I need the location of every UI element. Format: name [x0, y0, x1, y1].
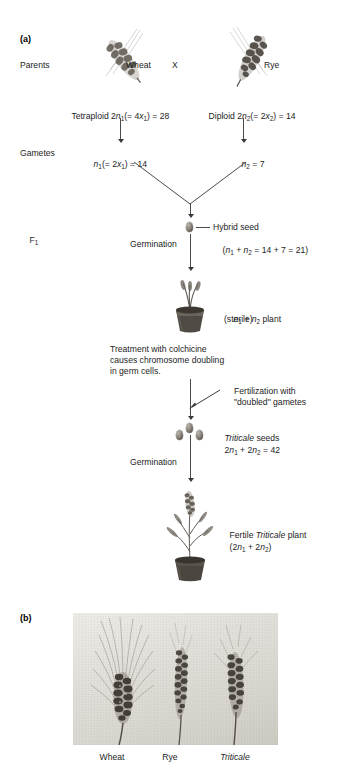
rye-ploidy-sub2: 2	[270, 115, 274, 122]
photo-caption-rye: Rye	[140, 752, 200, 762]
wheat-ploidy-mid: (= 4	[124, 111, 139, 121]
row-label-f1-sub: 1	[35, 239, 39, 246]
rye-gamete-suffix: = 7	[250, 159, 265, 169]
hybrid-formula-sub1: 1	[230, 249, 234, 256]
hybrid-formula-sub2: 2	[248, 249, 252, 256]
germination-label-2: Germination	[130, 457, 177, 468]
wheat-gamete-mid: (= 2	[102, 159, 117, 169]
triticale-formula-sub1: 1	[234, 449, 238, 456]
wheat-ploidy-sub1: 1	[121, 115, 125, 122]
panel-b-label: (b)	[20, 613, 32, 623]
fertilization-note-line-1: Fertilization with	[234, 386, 296, 397]
arrow-germination-1-head	[188, 267, 194, 271]
triticale-seed-icon-2	[176, 430, 183, 440]
arrow-rye-meiosis-line	[243, 118, 244, 140]
fertile-plant-formula: (2n1 + 2n2)	[220, 531, 271, 564]
arrow-germination-2-line	[190, 435, 191, 479]
colchicine-note-line-2: causes chromosome doubling	[110, 355, 224, 366]
rye-spike-illustration	[223, 24, 279, 90]
hybrid-formula-plus: +	[234, 245, 244, 255]
fertile-formula-sub1: 1	[242, 546, 246, 553]
hybrid-formula-close: = 14 + 7 = 21)	[252, 245, 308, 255]
wheat-ploidy-sub2: 1	[144, 115, 148, 122]
row-label-parents: Parents	[20, 60, 50, 71]
panel-a-label: (a)	[20, 34, 31, 44]
rye-ploidy-prefix: Diploid 2	[209, 111, 242, 121]
photo-caption-wheat: Wheat	[82, 752, 142, 762]
rye-ploidy-suffix: ) = 14	[273, 111, 295, 121]
fertile-formula-plus: + 2	[246, 542, 261, 552]
triticale-formula-plus: + 2	[238, 445, 253, 455]
colchicine-note-line-1: Treatment with colchicine	[110, 344, 207, 355]
hybrid-seed-formula: (n1 + n2 = 14 + 7 = 21)	[213, 234, 308, 267]
germination-label-1: Germination	[130, 239, 177, 250]
cross-symbol: X	[172, 60, 178, 71]
fertilization-note-line-2: "doubled" gametes	[234, 397, 306, 408]
triticale-formula-sub2: 2	[257, 449, 261, 456]
row-label-f1: F1	[20, 224, 38, 257]
arrow-germination-2-head	[188, 478, 194, 482]
hybrid-seed-label: Hybrid seed	[213, 222, 259, 233]
wheat-parent-label: Wheat	[126, 60, 151, 71]
sterile-plant-sub2: 2	[256, 318, 260, 325]
rye-ploidy-formula: Diploid 2n2(= 2x2) = 14	[199, 100, 296, 133]
arrow-wheat-meiosis-head	[118, 139, 124, 143]
wheat-ploidy-var-x: x	[139, 111, 143, 121]
triticale-seed-icon-1	[186, 423, 193, 433]
fertile-formula-sub2: 2	[265, 546, 269, 553]
rye-ploidy-mid: (= 2	[250, 111, 265, 121]
sterile-plant-illustration	[161, 276, 219, 334]
fertile-plant-suffix: plant	[285, 530, 306, 540]
hybrid-seed-leader-line	[196, 227, 210, 228]
arrow-wheat-meiosis-line	[120, 118, 121, 140]
wheat-ploidy-prefix: Tetraploid 2	[71, 111, 115, 121]
wheat-gamete-sub1: 1	[98, 163, 102, 170]
photo-caption-triticale: Triticale	[200, 752, 270, 762]
fertilization-arrow	[186, 388, 222, 410]
wheat-gamete-sub2: 1	[121, 163, 125, 170]
rye-parent-label: Rye	[264, 60, 279, 71]
hybrid-seed-icon	[186, 222, 193, 232]
wheat-spike-illustration	[96, 26, 152, 88]
row-label-gametes: Gametes	[20, 148, 55, 159]
comparison-photograph	[73, 613, 278, 745]
colchicine-note-line-3: in germ cells.	[110, 366, 161, 377]
wheat-ploidy-suffix: ) = 28	[147, 111, 169, 121]
rye-ploidy-sub1: 2	[247, 115, 251, 122]
figure-triticale-hybridization: (a) Parents	[0, 0, 346, 777]
wheat-ploidy-formula: Tetraploid 2n1(= 4x1) = 28	[62, 100, 169, 133]
arrow-fertilization-head	[188, 416, 194, 420]
arrow-rye-meiosis-head	[241, 139, 247, 143]
sterile-plant-suffix: plant	[260, 314, 281, 324]
triticale-seeds-formula: 2n1 + 2n2 = 42	[215, 434, 280, 467]
sterile-plant-note: (sterile)	[224, 314, 253, 325]
fertile-formula-close: )	[268, 542, 271, 552]
arrow-to-hybrid-seed-head	[188, 214, 194, 218]
triticale-seed-icon-3	[196, 430, 203, 440]
triticale-formula-post: = 42	[261, 445, 280, 455]
arrow-germination-1-line	[190, 234, 191, 268]
fertile-triticale-plant-illustration	[158, 490, 222, 582]
